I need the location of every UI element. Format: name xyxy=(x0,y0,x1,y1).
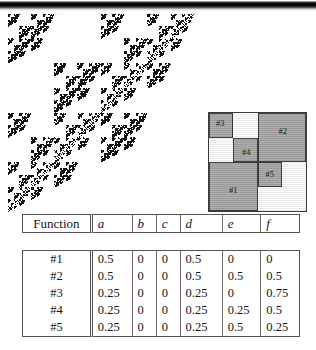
cell-a: 0.25 xyxy=(90,285,132,302)
cell-function: #3 xyxy=(22,285,90,302)
cell-a: 0.5 xyxy=(90,268,132,285)
header-b: b xyxy=(132,214,156,233)
cell-b: 0 xyxy=(132,319,156,337)
ifs-label-cell-3: #3 xyxy=(216,119,225,128)
cell-d: 0.5 xyxy=(180,268,222,285)
cell-f: 0.75 xyxy=(260,285,300,302)
ifs-cell-3: #3 xyxy=(209,113,233,138)
table-row: #40.25000.250.250.5 xyxy=(22,302,300,319)
cell-c: 0 xyxy=(156,302,180,319)
header-a: a xyxy=(90,214,132,233)
ifs-cell-4: #4 xyxy=(233,138,257,163)
affine-coefficients-table: Function a b c d e f #10.5000.500#20.500… xyxy=(22,214,300,337)
cell-d: 0.25 xyxy=(180,285,222,302)
coefficients-table-container: Function a b c d e f #10.5000.500#20.500… xyxy=(22,214,300,337)
gap-cell xyxy=(22,233,300,250)
header-f: f xyxy=(260,214,300,233)
cell-e: 0.25 xyxy=(222,302,261,319)
cell-a: 0.25 xyxy=(90,319,132,337)
ifs-unit-square-diagram: #1#2#3#4#5 xyxy=(208,112,307,212)
cell-f: 0 xyxy=(260,250,300,268)
cell-c: 0 xyxy=(156,268,180,285)
cell-c: 0 xyxy=(156,285,180,302)
ifs-label-cell-5: #5 xyxy=(265,170,274,179)
cell-b: 0 xyxy=(132,250,156,268)
header-function: Function xyxy=(22,214,90,233)
ifs-label-cell-1: #1 xyxy=(229,186,238,195)
cell-c: 0 xyxy=(156,319,180,337)
table-header: Function a b c d e f xyxy=(22,214,300,233)
cell-function: #5 xyxy=(22,319,90,337)
cell-f: 0.5 xyxy=(260,302,300,319)
table-body: #10.5000.500#20.5000.50.50.5#30.25000.25… xyxy=(22,250,300,337)
header-e: e xyxy=(222,214,261,233)
ifs-cell-2: #2 xyxy=(258,113,307,162)
cell-function: #2 xyxy=(22,268,90,285)
cell-a: 0.25 xyxy=(90,302,132,319)
cell-b: 0 xyxy=(132,285,156,302)
cell-b: 0 xyxy=(132,302,156,319)
cell-a: 0.5 xyxy=(90,250,132,268)
header-d: d xyxy=(180,214,222,233)
cell-e: 0 xyxy=(222,285,261,302)
cell-e: 0.5 xyxy=(222,268,261,285)
attractor-canvas xyxy=(8,14,194,212)
ifs-label-cell-2: #2 xyxy=(278,127,287,136)
cell-function: #1 xyxy=(22,250,90,268)
cell-function: #4 xyxy=(22,302,90,319)
header-c: c xyxy=(156,214,180,233)
cell-b: 0 xyxy=(132,268,156,285)
header-body-gap xyxy=(22,233,300,250)
cell-f: 0.25 xyxy=(260,319,300,337)
ifs-cell-1: #1 xyxy=(209,162,258,211)
ifs-cell-5: #5 xyxy=(258,162,282,187)
cell-d: 0.25 xyxy=(180,319,222,337)
attractor-points xyxy=(8,14,194,212)
table-gap xyxy=(22,233,300,250)
ifs-label-cell-4: #4 xyxy=(242,148,251,157)
cell-d: 0.25 xyxy=(180,302,222,319)
scan-edge-band xyxy=(0,0,316,11)
table-row: #50.25000.250.50.25 xyxy=(22,319,300,337)
table-header-row: Function a b c d e f xyxy=(22,214,300,233)
cell-e: 0 xyxy=(222,250,261,268)
cell-f: 0.5 xyxy=(260,268,300,285)
cell-d: 0.5 xyxy=(180,250,222,268)
ifs-fractal-attractor xyxy=(8,14,194,212)
table-row: #10.5000.500 xyxy=(22,250,300,268)
table-row: #20.5000.50.50.5 xyxy=(22,268,300,285)
cell-c: 0 xyxy=(156,250,180,268)
cell-e: 0.5 xyxy=(222,319,261,337)
table-row: #30.25000.2500.75 xyxy=(22,285,300,302)
